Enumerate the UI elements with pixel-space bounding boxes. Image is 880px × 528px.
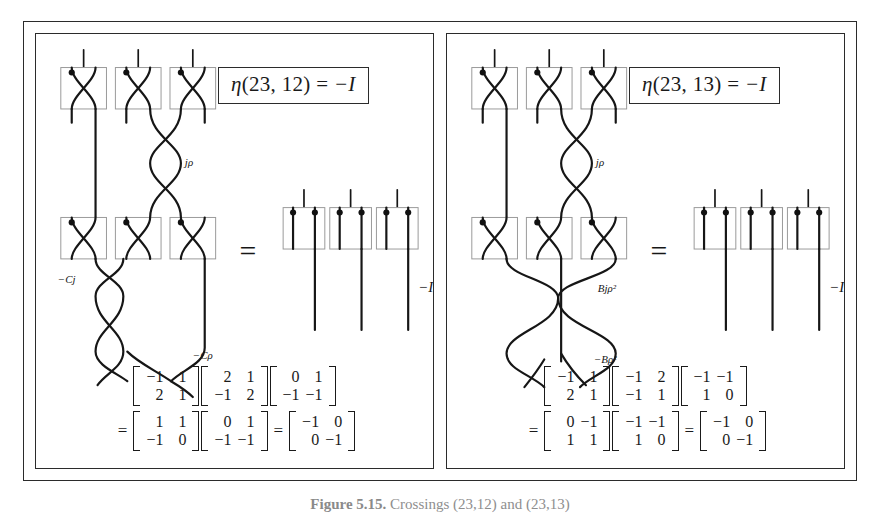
matrix-cells: −1121 (551, 366, 603, 406)
bracket-left (201, 411, 208, 451)
matrix-cells: 01−1−1 (208, 411, 260, 451)
dot-icon (589, 219, 595, 225)
matrix-row-2-right: =0−111−1−110=−100−1 (447, 411, 844, 451)
matrix: 11−10 (133, 411, 199, 451)
panel-left: η(23, 12) = −I (35, 33, 434, 469)
middle-braid-left (72, 109, 205, 218)
matrix-cell: −1 (691, 368, 714, 386)
bracket-right (740, 366, 747, 406)
generator-box-top-left-1 (61, 68, 107, 109)
matrix-cell: 0 (322, 413, 345, 431)
generator-box-bottom-left-1 (61, 217, 107, 258)
matrix-area-right: −1121−12−11−1−110 =0−111−1−110=−100−1 (447, 364, 844, 453)
matrix-cell: 1 (235, 368, 258, 386)
matrix-cell: −1 (299, 413, 322, 431)
matrix-cell: 0 (299, 431, 322, 449)
matrix-cell: 0 (645, 431, 668, 449)
matrix-cells: 0−111 (551, 411, 603, 451)
bracket-right (603, 366, 610, 406)
eta-equation-box-right: η(23, 13) = −I (629, 67, 780, 104)
matrix-cell: 0 (554, 413, 577, 431)
equals-sign-left: = (239, 235, 256, 267)
matrix-cells: −1121 (140, 366, 192, 406)
dot-icon (123, 69, 129, 75)
bracket-left (289, 411, 296, 451)
generator-box-bottom-right-2 (526, 217, 572, 258)
equals-sign-right: = (650, 235, 667, 267)
identity-label-left: −I (418, 279, 433, 295)
matrix-cells: 21−12 (208, 366, 260, 406)
bracket-right (759, 411, 766, 451)
matrix-cell: 1 (577, 386, 600, 404)
crossing-label-right-2: Bjρ² (598, 282, 617, 294)
matrix-cell: −1 (211, 431, 234, 449)
matrix-cell: 1 (577, 368, 600, 386)
identity-box-left-2 (330, 208, 372, 249)
bracket-right (261, 366, 268, 406)
eta-equals-left: = (316, 72, 328, 96)
identity-box-left-3 (376, 208, 418, 249)
dot-icon (701, 209, 707, 215)
matrix: −1121 (133, 366, 199, 406)
matrix: −100−1 (700, 411, 766, 451)
identity-label-right: −I (829, 279, 844, 295)
matrix-cell: −1 (622, 413, 645, 431)
bracket-left (201, 366, 208, 406)
equals-sign-matrix-prefix: = (524, 421, 544, 441)
bracket-right (192, 366, 199, 406)
matrix-cells: −100−1 (707, 411, 759, 451)
dot-icon (480, 219, 486, 225)
crossing-label-left-2: −Cj (58, 273, 76, 285)
matrix-cell: 2 (143, 386, 166, 404)
identity-diagram-left (283, 190, 418, 330)
matrix-cell: −1 (577, 413, 600, 431)
bracket-left (612, 411, 619, 451)
matrix-cell: 1 (646, 386, 669, 404)
matrix-cell: 2 (554, 386, 577, 404)
equals-sign-matrix-result: = (680, 421, 700, 441)
dot-icon (723, 209, 729, 215)
dot-icon (405, 209, 411, 215)
dot-icon (358, 209, 364, 215)
bracket-left (700, 411, 707, 451)
matrix-cell: 1 (143, 413, 166, 431)
identity-box-right-1 (694, 208, 736, 249)
panel-right: η(23, 13) = −I (446, 33, 845, 469)
generator-box-top-left-2 (115, 68, 161, 109)
dot-icon (383, 209, 389, 215)
bracket-left (133, 411, 140, 451)
matrix-cell: −1 (622, 368, 645, 386)
generator-box-top-left-3 (170, 68, 216, 109)
dot-icon (290, 209, 296, 215)
matrix-cell: −1 (280, 386, 303, 404)
matrix-cells: −1−110 (619, 411, 671, 451)
eta-args-left: (23, 12) (242, 72, 311, 96)
matrix-cell: 0 (714, 386, 737, 404)
dot-icon (337, 209, 343, 215)
matrix-cell: 0 (211, 413, 234, 431)
crossing-label-left-1: jρ (183, 156, 193, 168)
bracket-left (681, 366, 688, 406)
bracket-left (544, 366, 551, 406)
matrix-cell: 0 (280, 368, 303, 386)
matrix-cell: −1 (303, 386, 326, 404)
bracket-left (270, 366, 277, 406)
matrix: −12−11 (612, 366, 678, 406)
bracket-right (603, 411, 610, 451)
bracket-right (348, 411, 355, 451)
bracket-left (544, 411, 551, 451)
matrix-cell: 0 (710, 431, 733, 449)
matrix-cell: 1 (622, 431, 645, 449)
matrix-cell: −1 (234, 431, 257, 449)
caption-text: Crossings (23,12) and (23,13) (390, 496, 570, 512)
bracket-right (672, 411, 679, 451)
generator-box-bottom-right-3 (581, 217, 627, 258)
matrix-cells: −12−11 (619, 366, 671, 406)
matrix-cell: 1 (234, 413, 257, 431)
matrix-cell: −1 (143, 368, 166, 386)
dot-icon (178, 69, 184, 75)
dot-icon (69, 219, 75, 225)
matrix-cell: −1 (710, 413, 733, 431)
eta-value-left: −I (334, 72, 356, 96)
matrix-row-2-left: =11−1001−1−1=−100−1 (36, 411, 433, 451)
